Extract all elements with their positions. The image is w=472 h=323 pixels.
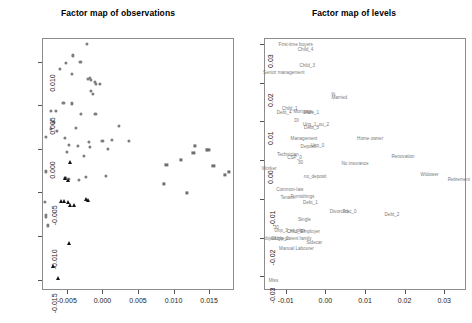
data-point-square <box>165 164 168 167</box>
y-tick-label: -0.010 <box>51 249 58 269</box>
y-tick-label: 0.01 <box>267 132 274 146</box>
level-label: Renovation <box>391 155 414 160</box>
x-tick-label: -0.005 <box>57 297 77 304</box>
level-label: Debt_4 <box>277 111 292 116</box>
level-label: Widower <box>421 173 439 178</box>
data-point-square <box>162 182 165 185</box>
panel-title-observations: Factor map of observations <box>0 8 236 18</box>
y-tick <box>38 192 42 193</box>
data-point-triangle <box>56 276 60 280</box>
level-label: Unp_0 <box>311 144 325 149</box>
y-tick-label: 0.00 <box>267 170 274 184</box>
level-label: 30 <box>298 161 303 166</box>
x-tick <box>67 290 68 294</box>
x-tick <box>286 290 287 294</box>
y-tick-label: -0.01 <box>269 210 276 226</box>
x-tick-label: 0.00 <box>319 297 333 304</box>
y-tick <box>260 121 264 122</box>
level-label: Home owner <box>357 137 383 142</box>
panel-levels: Factor map of levels First-time buyersCh… <box>236 0 472 323</box>
data-point-square <box>193 145 196 148</box>
y-tick <box>260 44 264 45</box>
y-tick-label: 0.02 <box>267 93 274 107</box>
y-tick-label: 0.010 <box>49 74 56 92</box>
level-label: Debt_2 <box>385 212 400 217</box>
data-point-square <box>185 192 188 195</box>
y-tick-label: -0.005 <box>51 206 58 226</box>
y-tick <box>260 199 264 200</box>
y-tick <box>38 105 42 106</box>
level-label: DI <box>294 119 299 124</box>
data-point-triangle <box>86 198 90 202</box>
panel-title-levels: Factor map of levels <box>236 8 472 18</box>
x-tick-label: 0.010 <box>165 297 183 304</box>
x-tick <box>209 290 210 294</box>
x-tick-label: -0.01 <box>278 297 294 304</box>
y-tick-label: -0.03 <box>269 288 276 304</box>
level-label: Retirement <box>448 177 470 182</box>
x-tick-label: 0.000 <box>94 297 112 304</box>
level-label: Debt_1 <box>303 200 318 205</box>
level-label: Debt_3 <box>304 126 319 131</box>
level-label: no_deposit <box>304 174 326 179</box>
x-tick-label: 0.015 <box>200 297 218 304</box>
y-tick <box>260 160 264 161</box>
level-label: Common-law <box>276 188 303 193</box>
data-point-square <box>179 158 182 161</box>
y-tick-label: -0.02 <box>269 249 276 265</box>
x-tick-label: 0.005 <box>129 297 147 304</box>
y-tick <box>38 280 42 281</box>
level-label: Single <box>298 218 311 223</box>
data-point-triangle <box>68 160 72 164</box>
y-tick-label: 0.005 <box>49 117 56 135</box>
data-point-square <box>207 148 210 151</box>
data-point-triangle <box>72 203 76 207</box>
y-tick <box>260 83 264 84</box>
data-point-square <box>212 165 215 168</box>
x-tick <box>444 290 445 294</box>
y-tick <box>260 276 264 277</box>
y-tick-label: 0.000 <box>49 161 56 179</box>
level-label: Miss <box>269 279 278 284</box>
y-tick <box>38 62 42 63</box>
level-label: Child_4 <box>298 47 314 52</box>
level-label: Married <box>331 96 347 101</box>
x-tick-label: 0.02 <box>398 297 412 304</box>
x-tick <box>174 290 175 294</box>
data-point-square <box>227 171 230 174</box>
panel-observations: Factor map of observations -0.0050.0000.… <box>0 0 236 323</box>
data-point-triangle <box>67 241 71 245</box>
x-tick <box>102 290 103 294</box>
plot-area-observations <box>42 38 234 290</box>
data-point-square <box>192 152 195 155</box>
x-tick <box>365 290 366 294</box>
x-tick <box>138 290 139 294</box>
y-tick-label: 0.03 <box>267 54 274 68</box>
x-tick-label: 0.01 <box>358 297 372 304</box>
y-tick <box>260 238 264 239</box>
level-label: Senior management <box>263 71 304 76</box>
data-point-triangle <box>66 178 70 182</box>
y-tick <box>38 149 42 150</box>
data-point-square <box>223 173 226 176</box>
level-label: Employer <box>301 230 320 235</box>
x-tick <box>325 290 326 294</box>
figure-canvas: Factor map of observations -0.0050.0000.… <box>0 0 472 323</box>
y-tick <box>38 236 42 237</box>
level-label: Child_3 <box>299 63 315 68</box>
level-label: Male_1 <box>304 111 319 116</box>
level-label: No insurance <box>342 162 369 167</box>
y-tick-label: -0.015 <box>51 293 58 313</box>
x-tick <box>405 290 406 294</box>
level-label: Manual Labourer <box>279 246 314 251</box>
level-label: Management <box>291 137 318 142</box>
x-tick-label: 0.03 <box>437 297 451 304</box>
level-label: Trac_0 <box>342 210 356 215</box>
